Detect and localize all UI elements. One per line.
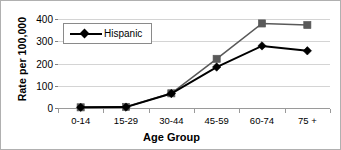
diamond-marker-icon [303, 47, 311, 55]
legend-entry-hispanic: Hispanic [64, 24, 151, 43]
x-tick-mark [58, 109, 59, 113]
diamond-marker-icon [258, 42, 266, 50]
square-marker-icon [304, 21, 311, 28]
square-marker-icon [258, 20, 265, 27]
x-axis-title: Age Group [1, 131, 341, 143]
x-tick-label: 45-59 [205, 115, 229, 126]
x-tick-label: 30-44 [159, 115, 183, 126]
x-tick-mark [285, 109, 286, 113]
x-tick-mark [103, 109, 104, 113]
legend-box: Hispanic [63, 23, 152, 44]
diamond-marker-icon [70, 29, 102, 39]
square-marker-icon [213, 55, 220, 62]
x-tick-label: 0-14 [71, 115, 90, 126]
x-tick-mark [194, 109, 195, 113]
x-tick-label: 15-29 [114, 115, 138, 126]
x-tick-mark [239, 109, 240, 113]
chart-container: Rate per 100,000 0100200300400 Hispanic … [0, 0, 341, 150]
x-tick-mark [149, 109, 150, 113]
x-tick-label: 60-74 [250, 115, 274, 126]
x-tick-mark [330, 109, 331, 113]
series-layer [1, 1, 341, 150]
x-tick-label: 75 + [298, 115, 317, 126]
diamond-marker-icon [212, 63, 220, 71]
legend-label: Hispanic [104, 28, 142, 39]
